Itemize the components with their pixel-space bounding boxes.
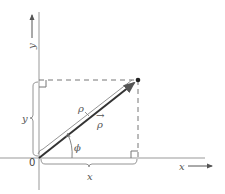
point-marker (136, 78, 141, 83)
y-component-label: y (21, 113, 28, 124)
phi-label: ϕ (74, 142, 81, 153)
coordinate-diagram: y x 0 y x ρ ρ → ϕ (0, 0, 225, 194)
x-component-brace (41, 159, 137, 167)
rho-vector-arrow (39, 83, 134, 158)
phi-angle-arc (68, 135, 72, 158)
origin-label: 0 (29, 157, 35, 168)
rho-magnitude-line (38, 80, 132, 154)
rho-vector-arrow-label: → (96, 110, 105, 121)
right-angle-mark-top (39, 80, 46, 87)
y-component-brace (30, 82, 38, 156)
y-axis-label: y (26, 43, 37, 50)
x-component-label: x (87, 171, 93, 182)
rho-magnitude-label: ρ (77, 103, 84, 114)
x-axis-label: x (179, 161, 185, 172)
right-angle-mark-bottom (131, 151, 138, 158)
